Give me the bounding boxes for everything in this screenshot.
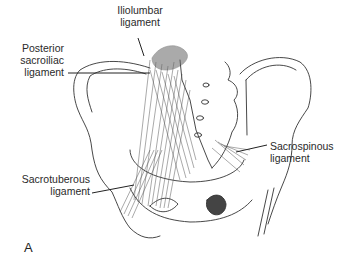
sacrotuberous-ligament-label: Sacrotuberous ligament <box>0 173 90 197</box>
label-line: ligament <box>113 16 167 28</box>
pelvis-drawing <box>0 0 353 259</box>
label-line: Iliolumbar <box>113 4 167 16</box>
iliolumbar-leader-line <box>138 38 144 56</box>
label-line: ligament <box>0 66 64 78</box>
label-line: Sacrotuberous <box>0 173 90 185</box>
iliolumbar-ligament-label: Iliolumbar ligament <box>113 4 167 28</box>
panel-letter: A <box>24 240 33 255</box>
label-line: Sacrospinous <box>270 140 334 152</box>
sacrotuberous-leader-line <box>92 185 134 193</box>
label-line: ligament <box>0 185 90 197</box>
label-line: Posterior <box>0 42 64 54</box>
label-line: ligament <box>270 152 334 164</box>
posterior-sacroiliac-ligament-label: Posterior sacroiliac ligament <box>0 42 64 78</box>
pelvis-ligament-figure: Iliolumbar ligament Posterior sacroiliac… <box>0 0 353 259</box>
sacrospinous-ligament-label: Sacrospinous ligament <box>270 140 334 164</box>
label-line: sacroiliac <box>0 54 64 66</box>
